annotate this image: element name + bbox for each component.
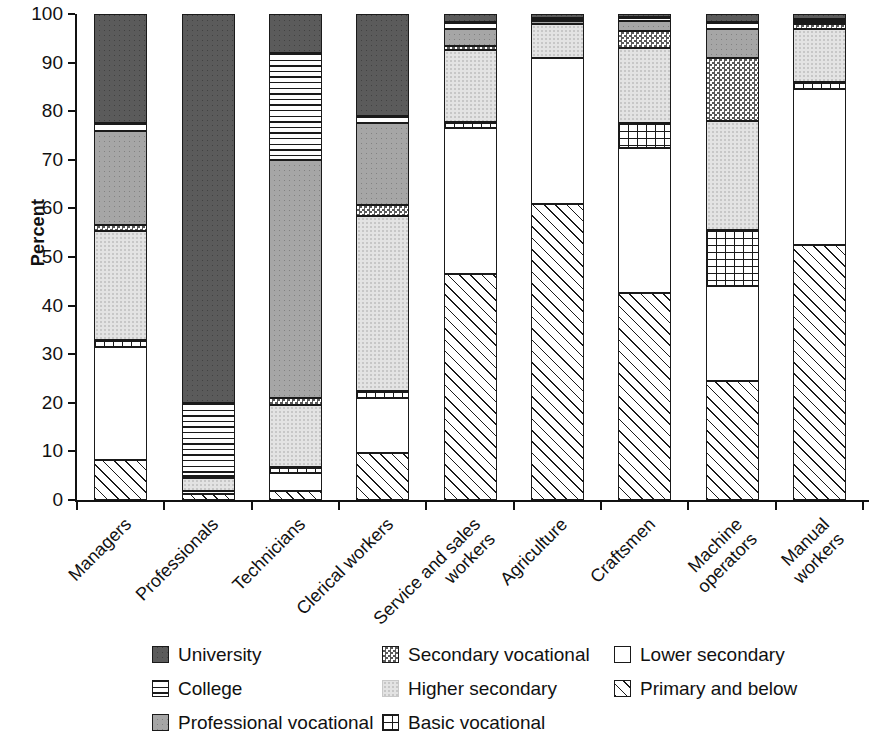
legend-item-basic-vocational[interactable]: Basic vocational bbox=[382, 713, 545, 732]
bar-segment-higher-secondary bbox=[706, 121, 759, 230]
y-tick-mark bbox=[68, 256, 75, 258]
bar-segment-secondary-vocational bbox=[356, 205, 409, 216]
bar-service-and-sales-workers[interactable] bbox=[444, 14, 497, 500]
bar-segment-basic-vocational bbox=[618, 123, 671, 147]
y-tick-label: 10 bbox=[19, 441, 63, 460]
x-tick-mark bbox=[862, 502, 864, 510]
bar-segment-primary-and-below bbox=[618, 293, 671, 500]
bar-segment-higher-secondary bbox=[618, 48, 671, 123]
bar-machine-operators[interactable] bbox=[706, 14, 759, 500]
bar-segment-basic-vocational bbox=[793, 82, 846, 89]
bar-segment-university bbox=[269, 14, 322, 53]
bar-segment-higher-secondary bbox=[94, 231, 147, 339]
bar-managers[interactable] bbox=[94, 14, 147, 500]
legend-item-primary-and-below[interactable]: Primary and below bbox=[614, 679, 797, 698]
x-tick-mark bbox=[600, 502, 602, 510]
bar-segment-lower-secondary bbox=[269, 473, 322, 491]
x-tick-mark bbox=[775, 502, 777, 510]
y-tick-label: 20 bbox=[19, 393, 63, 412]
horizontal-lines-icon bbox=[152, 680, 169, 697]
bar-segment-secondary-vocational bbox=[94, 225, 147, 231]
bar-segment-professional-vocational bbox=[269, 160, 322, 398]
y-tick-mark bbox=[68, 110, 75, 112]
y-axis-label: Percent bbox=[28, 173, 49, 293]
y-tick-label: 60 bbox=[19, 198, 63, 217]
dark-solid-icon bbox=[152, 646, 169, 663]
bar-segment-university bbox=[94, 14, 147, 123]
y-tick-mark bbox=[68, 499, 75, 501]
legend-item-college[interactable]: College bbox=[152, 679, 242, 698]
bar-agriculture[interactable] bbox=[531, 14, 584, 500]
stacked-bar-chart: Percent 0102030405060708090100 ManagersP… bbox=[0, 0, 881, 738]
bar-segment-secondary-vocational bbox=[182, 476, 235, 478]
bar-segment-university bbox=[182, 14, 235, 403]
bar-segment-university bbox=[531, 14, 584, 18]
bar-segment-higher-secondary bbox=[444, 50, 497, 122]
bar-segment-primary-and-below bbox=[793, 245, 846, 500]
bar-segment-basic-vocational bbox=[706, 230, 759, 286]
legend-label: University bbox=[178, 645, 261, 664]
bar-segment-basic-vocational bbox=[356, 391, 409, 398]
bar-segment-secondary-vocational bbox=[706, 58, 759, 121]
bar-segment-professional-vocational bbox=[531, 21, 584, 24]
bar-segment-primary-and-below bbox=[94, 460, 147, 500]
bar-segment-primary-and-below bbox=[269, 491, 322, 500]
bar-segment-secondary-vocational bbox=[444, 46, 497, 51]
y-tick-mark bbox=[68, 13, 75, 15]
bar-segment-professional-vocational bbox=[706, 29, 759, 58]
bar-segment-college bbox=[618, 17, 671, 21]
bar-segment-lower-secondary bbox=[793, 89, 846, 245]
bar-segment-secondary-vocational bbox=[793, 24, 846, 29]
light-stipple-icon bbox=[382, 680, 399, 697]
bar-segment-professional-vocational bbox=[444, 29, 497, 46]
bar-segment-higher-secondary bbox=[531, 24, 584, 58]
y-tick-label: 40 bbox=[19, 296, 63, 315]
legend-item-higher-secondary[interactable]: Higher secondary bbox=[382, 679, 557, 698]
bar-segment-lower-secondary bbox=[94, 347, 147, 460]
grid-icon bbox=[382, 714, 399, 731]
x-tick-mark bbox=[338, 502, 340, 510]
bar-segment-primary-and-below bbox=[531, 204, 584, 500]
bar-segment-higher-secondary bbox=[793, 29, 846, 82]
checkerboard-icon bbox=[382, 646, 399, 663]
y-tick-mark bbox=[68, 305, 75, 307]
bar-segment-lower-secondary bbox=[706, 286, 759, 381]
bar-segment-basic-vocational bbox=[444, 122, 497, 128]
y-tick-mark bbox=[68, 207, 75, 209]
bar-clerical-workers[interactable] bbox=[356, 14, 409, 500]
bar-technicians[interactable] bbox=[269, 14, 322, 500]
y-tick-label: 30 bbox=[19, 344, 63, 363]
bar-segment-college bbox=[269, 53, 322, 160]
x-tick-mark bbox=[251, 502, 253, 510]
legend-item-professional-vocational[interactable]: Professional vocational bbox=[152, 713, 373, 732]
bar-segment-primary-and-below bbox=[444, 274, 497, 500]
legend-item-lower-secondary[interactable]: Lower secondary bbox=[614, 645, 785, 664]
legend-label: College bbox=[178, 679, 242, 698]
y-tick-mark bbox=[68, 353, 75, 355]
bar-segment-college bbox=[94, 123, 147, 130]
bar-segment-basic-vocational bbox=[269, 467, 322, 473]
legend-label: Basic vocational bbox=[408, 713, 545, 732]
bar-segment-secondary-vocational bbox=[269, 398, 322, 405]
x-tick-mark bbox=[76, 502, 78, 510]
bar-craftsmen[interactable] bbox=[618, 14, 671, 500]
empty-white-icon bbox=[614, 646, 631, 663]
bar-segment-higher-secondary bbox=[182, 478, 235, 491]
bar-segment-professional-vocational bbox=[618, 21, 671, 31]
bar-manual-workers[interactable] bbox=[793, 14, 846, 500]
legend-label: Higher secondary bbox=[408, 679, 557, 698]
bar-segment-university bbox=[356, 14, 409, 116]
x-tick-mark bbox=[687, 502, 689, 510]
bar-segment-university bbox=[706, 14, 759, 22]
bar-segment-higher-secondary bbox=[269, 405, 322, 467]
y-tick-mark bbox=[68, 450, 75, 452]
y-tick-mark bbox=[68, 402, 75, 404]
legend-item-university[interactable]: University bbox=[152, 645, 261, 664]
bar-segment-college bbox=[531, 18, 584, 20]
legend-label: Secondary vocational bbox=[408, 645, 590, 664]
legend-item-secondary-vocational[interactable]: Secondary vocational bbox=[382, 645, 590, 664]
bar-segment-college bbox=[793, 19, 846, 21]
bar-professionals[interactable] bbox=[182, 14, 235, 500]
y-tick-label: 50 bbox=[19, 247, 63, 266]
plot-area bbox=[77, 14, 863, 500]
